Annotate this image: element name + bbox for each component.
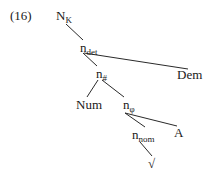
node-subscript: K xyxy=(65,15,72,25)
node-label: n xyxy=(123,97,130,112)
node-nnom: nnom xyxy=(132,128,155,143)
tree-edges xyxy=(0,0,209,184)
edge-nphi-a xyxy=(125,113,177,126)
node-subscript: φ xyxy=(130,104,135,114)
edge-NK-ndet xyxy=(66,24,83,40)
node-label: n xyxy=(132,127,139,142)
node-subscript: # xyxy=(103,73,108,83)
node-nnum: n# xyxy=(96,67,107,82)
node-label: n xyxy=(96,66,103,81)
node-nphi: nφ xyxy=(123,98,135,113)
node-dem: Dem xyxy=(177,68,202,82)
node-label: Num xyxy=(76,97,102,112)
root-symbol-icon: √ xyxy=(148,156,155,171)
node-label: n xyxy=(80,40,87,55)
example-number: (16) xyxy=(10,9,32,23)
node-NK: NK xyxy=(56,9,72,24)
node-num: Num xyxy=(76,98,102,112)
node-a: A xyxy=(174,126,183,140)
edge-nnom-root xyxy=(140,142,152,156)
node-root: √ xyxy=(148,157,155,171)
node-label: Dem xyxy=(177,67,202,82)
edge-nnum-num xyxy=(87,80,98,97)
node-subscript: det xyxy=(87,47,98,57)
node-subscript: nom xyxy=(139,134,155,144)
node-label: A xyxy=(174,125,183,140)
node-ndet: ndet xyxy=(80,41,98,56)
node-label: N xyxy=(56,8,65,23)
